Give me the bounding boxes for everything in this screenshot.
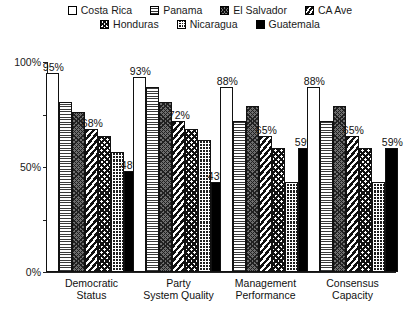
legend-item-panama[interactable]: Panama: [150, 4, 202, 16]
legend-item-label: Honduras: [113, 18, 159, 30]
legend-item-label: El Salvador: [233, 4, 287, 16]
bar-caave[interactable]: 65%: [346, 136, 359, 273]
bar-value-label: 65%: [256, 125, 277, 136]
bar-costarica[interactable]: 88%: [220, 87, 233, 272]
legend-swatch-icon: [305, 6, 314, 15]
bar-stack: 88%65%59%: [309, 62, 396, 272]
chart-legend: Costa RicaPanamaEl SalvadorCA Ave Hondur…: [0, 4, 420, 30]
legend-item-nicaragua[interactable]: Nicaragua: [177, 18, 238, 30]
category-label: ConsensusCapacity: [309, 277, 396, 301]
bar-group: 93%72%43%: [135, 62, 222, 272]
y-axis-tick-label: 50%: [20, 162, 41, 172]
legend-item-honduras[interactable]: Honduras: [100, 18, 159, 30]
bar-value-label: 88%: [217, 76, 238, 87]
bar-panama[interactable]: [59, 102, 72, 272]
bar-stack: 95%68%48%: [48, 62, 135, 272]
bar-stack: 93%72%43%: [135, 62, 222, 272]
bar-guatemala[interactable]: 59%: [385, 148, 398, 272]
legend-item-label: Guatemala: [269, 18, 320, 30]
bar-value-label: 59%: [382, 137, 403, 148]
legend-item-label: Nicaragua: [190, 18, 238, 30]
bar-nicaragua[interactable]: [372, 182, 385, 272]
y-axis-tick-label: 100%: [14, 57, 41, 67]
category-label-line: Status: [48, 289, 135, 301]
legend-row: Costa RicaPanamaEl SalvadorCA Ave: [59, 4, 361, 16]
bar-honduras[interactable]: [185, 129, 198, 272]
legend-item-label: Costa Rica: [81, 4, 132, 16]
legend-item-label: Panama: [163, 4, 202, 16]
legend-swatch-icon: [177, 20, 186, 29]
legend-swatch-icon: [220, 6, 229, 15]
bar-caave[interactable]: 65%: [259, 136, 272, 273]
bar-value-label: 68%: [82, 118, 103, 129]
legend-item-guatemala[interactable]: Guatemala: [256, 18, 320, 30]
legend-item-elsalvador[interactable]: El Salvador: [220, 4, 287, 16]
legend-item-costarica[interactable]: Costa Rica: [68, 4, 132, 16]
category-label-line: Management: [222, 277, 309, 289]
bar-costarica[interactable]: 93%: [133, 77, 146, 272]
category-label: PartySystem Quality: [135, 277, 222, 301]
legend-swatch-icon: [256, 20, 265, 29]
legend-swatch-icon: [68, 6, 77, 15]
bar-costarica[interactable]: 95%: [46, 73, 59, 273]
category-label: DemocraticStatus: [48, 277, 135, 301]
bar-group: 88%65%59%: [309, 62, 396, 272]
legend-item-label: CA Ave: [318, 4, 352, 16]
bar-honduras[interactable]: [359, 148, 372, 272]
bar-nicaragua[interactable]: [285, 182, 298, 272]
x-axis-line: [47, 272, 396, 273]
bar-elsalvador[interactable]: [72, 112, 85, 272]
bar-value-label: 72%: [169, 110, 190, 121]
legend-swatch-icon: [150, 6, 159, 15]
bar-panama[interactable]: [146, 87, 159, 272]
bar-value-label: 65%: [343, 125, 364, 136]
bar-honduras[interactable]: [98, 136, 111, 273]
bar-stack: 88%65%59%: [222, 62, 309, 272]
category-label-line: Democratic: [48, 277, 135, 289]
bar-value-label: 88%: [304, 76, 325, 87]
legend-swatch-icon: [100, 20, 109, 29]
category-label-line: Performance: [222, 289, 309, 301]
plot-area: 0%50%100% 95%68%48%93%72%43%88%65%59%88%…: [48, 62, 396, 272]
bar-group: 95%68%48%: [48, 62, 135, 272]
y-axis-tick: [43, 272, 48, 273]
category-label: ManagementPerformance: [222, 277, 309, 301]
bar-panama[interactable]: [233, 121, 246, 272]
bar-nicaragua[interactable]: [198, 140, 211, 272]
category-label-line: Capacity: [309, 289, 396, 301]
category-label-line: Party: [135, 277, 222, 289]
bar-honduras[interactable]: [272, 148, 285, 272]
bar-caave[interactable]: 68%: [85, 129, 98, 272]
bar-chart: Costa RicaPanamaEl SalvadorCA Ave Hondur…: [0, 0, 420, 311]
bar-value-label: 95%: [43, 62, 64, 73]
y-axis-tick-label: 0%: [26, 267, 41, 277]
x-axis-category-labels: DemocraticStatusPartySystem QualityManag…: [48, 277, 396, 301]
bar-panama[interactable]: [320, 121, 333, 272]
bar-groups: 95%68%48%93%72%43%88%65%59%88%65%59%: [48, 62, 396, 272]
bar-value-label: 93%: [130, 66, 151, 77]
category-label-line: System Quality: [135, 289, 222, 301]
category-label-line: Consensus: [309, 277, 396, 289]
bar-group: 88%65%59%: [222, 62, 309, 272]
bar-caave[interactable]: 72%: [172, 121, 185, 272]
legend-row: HondurasNicaraguaGuatemala: [91, 18, 329, 30]
bar-costarica[interactable]: 88%: [307, 87, 320, 272]
legend-item-caave[interactable]: CA Ave: [305, 4, 352, 16]
bar-elsalvador[interactable]: [159, 102, 172, 272]
